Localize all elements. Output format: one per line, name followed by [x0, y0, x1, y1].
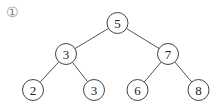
node-value: 3: [63, 47, 70, 62]
node-value: 7: [165, 47, 172, 62]
node-value: 5: [114, 16, 121, 31]
tree-nodes: 5372368: [23, 13, 210, 101]
binary-tree-diagram: 5372368: [0, 0, 218, 111]
tree-edge: [40, 62, 59, 83]
tree-node: 3: [56, 44, 77, 65]
tree-node: 7: [158, 44, 179, 65]
tree-node: 2: [23, 80, 44, 101]
tree-node: 3: [84, 80, 105, 101]
tree-edge: [144, 62, 161, 82]
tree-edge: [75, 28, 109, 48]
tree-node: 8: [188, 80, 209, 101]
tree-edge: [72, 62, 87, 81]
tree-edge: [126, 28, 159, 48]
tree-node: 5: [107, 13, 128, 34]
tree-node: 6: [127, 80, 148, 101]
node-value: 6: [134, 83, 141, 98]
node-value: 3: [91, 83, 98, 98]
tree-edge: [175, 62, 192, 82]
node-value: 2: [30, 83, 37, 98]
node-value: 8: [195, 83, 202, 98]
